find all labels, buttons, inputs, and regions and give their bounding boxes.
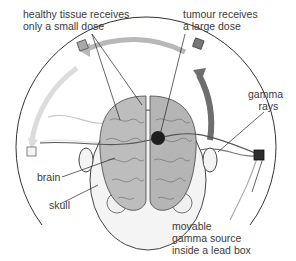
label-healthy-tissue: healthy tissue receivesonly a small dose bbox=[23, 8, 129, 32]
gamma-source-mid bbox=[193, 38, 205, 50]
ear-right bbox=[203, 148, 217, 172]
arrow-dark bbox=[199, 75, 211, 140]
gamma-knife-diagram: healthy tissue receivesonly a small dose… bbox=[0, 0, 296, 261]
label-gamma-rays: gamma rays bbox=[248, 88, 283, 112]
arrow-light bbox=[32, 68, 77, 140]
tumour bbox=[151, 131, 165, 145]
label-brain: brain bbox=[37, 171, 60, 183]
label-tumour: tumour receivesa large dose bbox=[183, 8, 258, 32]
gamma-source-faint bbox=[27, 147, 36, 156]
diagram-graphic bbox=[0, 0, 296, 261]
label-skull: skull bbox=[49, 199, 70, 211]
label-gamma-source: movablegamma sourceinside a lead box bbox=[172, 220, 251, 256]
